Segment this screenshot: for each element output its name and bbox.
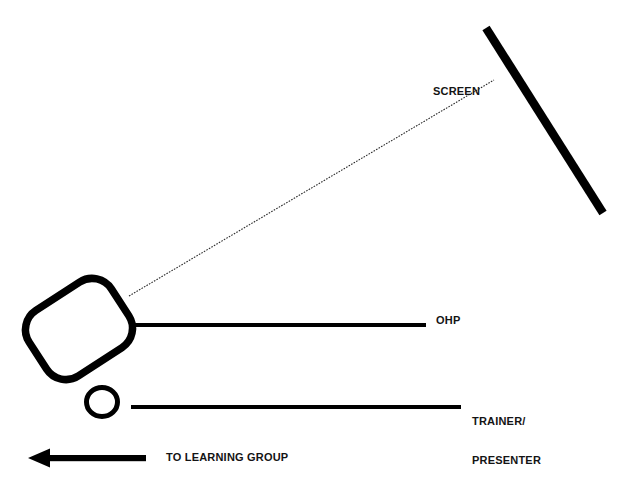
screen-label: SCREEN bbox=[433, 85, 480, 98]
arrow-head-icon bbox=[28, 449, 50, 468]
diagram-canvas: SCREEN OHP TRAINER/ PRESENTER TO LEARNIN… bbox=[0, 0, 624, 492]
learning-group-label: TO LEARNING GROUP bbox=[166, 451, 288, 464]
arrow-shaft bbox=[46, 455, 146, 461]
trainer-head-ellipse bbox=[87, 388, 118, 417]
ohp-body-group bbox=[17, 270, 142, 389]
trainer-presenter-label-line1: TRAINER/ bbox=[472, 415, 541, 428]
projection-beam-line bbox=[129, 80, 494, 296]
ohp-body-rect bbox=[17, 270, 142, 389]
trainer-presenter-label: TRAINER/ PRESENTER bbox=[472, 389, 541, 492]
screen-board-line bbox=[486, 28, 603, 213]
learning-group-arrow-group bbox=[28, 449, 146, 468]
trainer-presenter-label-line2: PRESENTER bbox=[472, 454, 541, 467]
ohp-label: OHP bbox=[436, 314, 460, 327]
